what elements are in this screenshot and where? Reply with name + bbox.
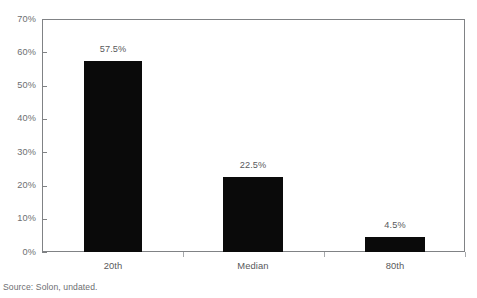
y-axis-tick-mark — [42, 19, 47, 20]
x-axis-tick-mark — [465, 252, 466, 257]
y-axis-tick-mark — [42, 86, 47, 87]
y-axis-tick-label: 30% — [0, 148, 36, 157]
bar-value-label: 22.5% — [223, 161, 283, 170]
y-axis-tick-label: 10% — [0, 214, 36, 223]
y-axis: 70% 60% 50% 40% 30% 20% 10% 0% — [0, 0, 36, 298]
bar-median — [223, 177, 283, 252]
y-axis-tick-label: 70% — [0, 15, 36, 24]
y-axis-tick-label: 20% — [0, 181, 36, 190]
bar-20th — [84, 61, 142, 252]
y-axis-tick-label: 60% — [0, 48, 36, 57]
bar-value-label: 4.5% — [365, 221, 425, 230]
x-axis-category-label: 80th — [365, 261, 425, 271]
y-axis-tick-mark — [42, 219, 47, 220]
y-axis-tick-label: 40% — [0, 114, 36, 123]
y-axis-tick-mark — [42, 152, 47, 153]
y-axis-tick-label: 0% — [0, 248, 36, 257]
y-axis-tick-mark — [42, 52, 47, 53]
x-axis-category-label: Median — [223, 261, 283, 271]
y-axis-tick-label: 50% — [0, 81, 36, 90]
bar-80th — [365, 237, 425, 252]
x-axis-tick-mark — [183, 252, 184, 257]
y-axis-tick-mark — [42, 119, 47, 120]
x-axis-tick-mark — [324, 252, 325, 257]
y-axis-tick-mark — [42, 252, 47, 253]
bar-chart-figure: 70% 60% 50% 40% 30% 20% 10% 0% 57.5% 22.… — [0, 0, 477, 298]
bar-value-label: 57.5% — [83, 45, 143, 54]
y-axis-tick-mark — [42, 186, 47, 187]
x-axis-category-label: 20th — [83, 261, 143, 271]
source-note: Source: Solon, undated. — [3, 282, 98, 292]
